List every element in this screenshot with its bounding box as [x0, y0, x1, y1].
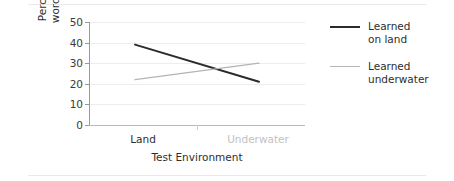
page-rule-top — [28, 4, 426, 5]
legend-line-icon-learned-on-land — [330, 26, 360, 28]
y-tick-label-50: 50 — [70, 17, 83, 28]
plot-area: 50 40 30 20 10 0 — [89, 22, 305, 125]
legend-item-learned-underwater[interactable]: Learned underwater — [330, 60, 448, 86]
legend-label-learned-on-land: Learned on land — [368, 20, 410, 46]
y-tick-label-40: 40 — [70, 38, 83, 49]
series-line-learned-on-land — [135, 45, 259, 82]
page-rule-bottom — [28, 175, 426, 176]
series-layer — [89, 22, 305, 125]
legend-line-icon-learned-underwater — [330, 66, 360, 67]
y-tick-label-20: 20 — [70, 79, 83, 90]
legend-item-learned-on-land[interactable]: Learned on land — [330, 20, 448, 46]
y-axis-title: Percentage of words recalled — [36, 0, 62, 30]
y-tick-label-30: 30 — [70, 58, 83, 69]
x-category-label-land: Land — [130, 134, 156, 145]
y-tick-label-10: 10 — [70, 99, 83, 110]
chart-figure: Percentage of words recalled 50 40 30 20 — [0, 0, 454, 181]
chart-legend: Learned on land Learned underwater — [330, 20, 448, 101]
y-tick-label-0: 0 — [76, 120, 83, 131]
legend-label-learned-underwater: Learned underwater — [368, 60, 429, 86]
y-tick-mark-0 — [85, 125, 89, 126]
x-category-label-underwater: Underwater — [227, 134, 289, 145]
x-axis-title: Test Environment — [89, 152, 305, 163]
x-tick-mark-midpoint — [197, 125, 198, 130]
